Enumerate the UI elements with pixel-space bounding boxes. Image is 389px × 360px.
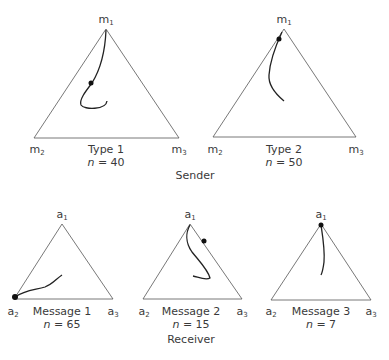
trajectory-message2	[187, 225, 210, 279]
vertex-label-left-message3: a2	[265, 306, 276, 321]
vertex-label-top-message1: a1	[56, 209, 67, 224]
triangle-type1	[34, 29, 179, 138]
triangle-message1	[14, 224, 113, 299]
start-point-message1	[12, 294, 18, 300]
vertex-label-left-message1: a2	[7, 306, 18, 321]
vertex-label-right-type2: m3	[348, 144, 363, 159]
vertex-label-right-message1: a3	[107, 306, 118, 321]
vertex-label-left-message2: a2	[138, 306, 149, 321]
sample-size-type2: n = 50	[265, 157, 302, 169]
sample-size-message1: n = 65	[43, 319, 80, 331]
panel-title-message1: Message 1	[33, 306, 92, 318]
start-point-type1	[89, 81, 94, 86]
vertex-label-right-message2: a3	[236, 306, 247, 321]
triangle-message3	[271, 224, 371, 300]
group-label-sender: Sender	[176, 170, 215, 182]
trajectory-type2	[269, 32, 284, 101]
start-point-type2	[277, 37, 282, 42]
triangle-type2	[213, 29, 356, 137]
group-label-receiver: Receiver	[167, 334, 215, 346]
vertex-label-right-type1: m3	[171, 144, 186, 159]
vertex-label-top-message3: a1	[315, 209, 326, 224]
start-point-message2	[202, 239, 207, 244]
sample-size-message3: n = 7	[306, 319, 336, 331]
trajectory-type1	[81, 30, 107, 108]
panel-title-type1: Type 1	[88, 144, 124, 156]
vertex-label-top-type1: m1	[98, 14, 113, 29]
vertex-label-top-type2: m1	[276, 14, 291, 29]
panel-title-message2: Message 2	[162, 306, 221, 318]
vertex-label-top-message2: a1	[184, 209, 195, 224]
triangle-message2	[143, 224, 242, 299]
trajectory-message3	[321, 225, 324, 275]
vertex-label-left-type2: m2	[207, 144, 222, 159]
sample-size-message2: n = 15	[172, 319, 209, 331]
vertex-label-left-type1: m2	[29, 144, 44, 159]
sample-size-type1: n = 40	[87, 157, 124, 169]
vertex-label-right-message3: a3	[365, 306, 376, 321]
panel-title-message3: Message 3	[292, 306, 351, 318]
panel-title-type2: Type 2	[266, 144, 302, 156]
